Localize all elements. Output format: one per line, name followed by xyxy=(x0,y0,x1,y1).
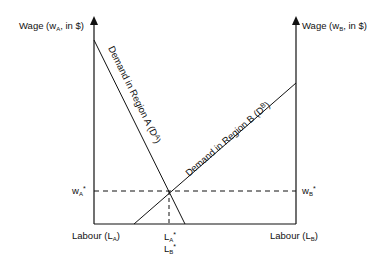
labour-b-axis-label: Labour (LB) xyxy=(270,231,318,242)
demand-curve-a xyxy=(94,40,185,224)
right-axis-arrow-icon xyxy=(292,16,300,25)
left-axis-arrow-icon xyxy=(90,16,98,25)
equilibrium-labour-a-label: LA* xyxy=(164,231,176,243)
right-axis-label: Wage (wB, in $) xyxy=(302,21,367,32)
labour-a-axis-label: Labour (LA) xyxy=(72,231,120,242)
equilibrium-labour-b-label: LB* xyxy=(164,243,176,255)
equilibrium-wage-a-label: wA* xyxy=(72,185,86,197)
diagram-canvas xyxy=(0,0,380,263)
left-axis-label: Wage (wA, in $) xyxy=(19,21,84,32)
equilibrium-wage-b-label: wB* xyxy=(302,185,316,197)
